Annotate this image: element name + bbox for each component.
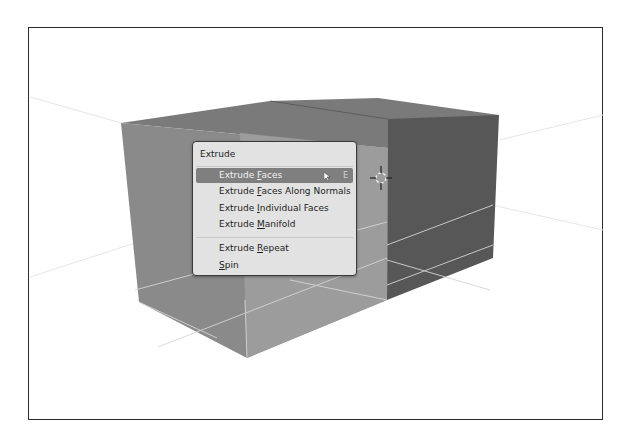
shortcut-label: E <box>343 168 348 183</box>
menu-separator <box>196 237 353 238</box>
menu-item-extrude-manifold[interactable]: Extrude Manifold <box>196 217 353 232</box>
right-face <box>387 115 499 300</box>
menu-item-spin[interactable]: Spin <box>196 258 353 273</box>
menu-item-extrude-faces-along-normals[interactable]: Extrude Faces Along Normals <box>196 184 353 199</box>
menu-item-extrude-repeat[interactable]: Extrude Repeat <box>196 241 353 256</box>
3d-cursor-icon[interactable] <box>370 166 392 194</box>
menu-item-extrude-individual-faces[interactable]: Extrude Individual Faces <box>196 201 353 216</box>
menu-separator <box>196 166 353 167</box>
extrude-context-menu: Extrude Extrude Faces E Extrude Faces Al… <box>192 141 357 276</box>
menu-title: Extrude <box>200 149 235 159</box>
menu-item-extrude-faces[interactable]: Extrude Faces E <box>196 168 353 183</box>
